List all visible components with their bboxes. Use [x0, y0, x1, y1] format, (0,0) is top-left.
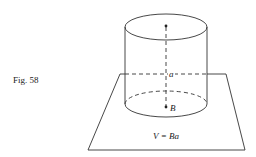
- volume-formula: V = Ba: [153, 131, 179, 141]
- cylinder-diagram: a B V = Ba: [0, 0, 256, 157]
- height-label: a: [169, 69, 174, 79]
- top-center-dot: [165, 25, 168, 28]
- height-axis: [165, 25, 168, 109]
- base-center-dot: [165, 106, 168, 109]
- base-label: B: [170, 103, 176, 113]
